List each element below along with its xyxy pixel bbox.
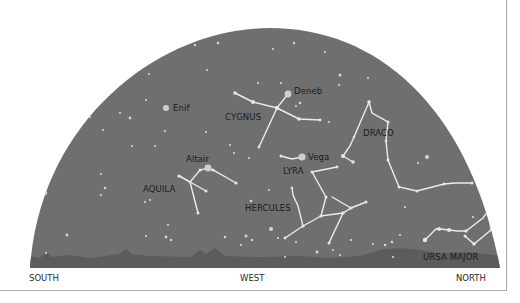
star-label-altair: Altair bbox=[186, 154, 209, 164]
direction-label-west: WEST bbox=[240, 273, 264, 283]
star-label-vega: Vega bbox=[308, 152, 329, 162]
constellation-label-ursa-major: URSA MAJOR bbox=[423, 252, 478, 262]
star-label-deneb: Deneb bbox=[294, 86, 322, 96]
constellation-label-draco: DRACO bbox=[363, 128, 394, 138]
star-label-enif: Enif bbox=[173, 103, 190, 113]
direction-label-south: SOUTH bbox=[29, 273, 59, 283]
direction-label-north: NORTH bbox=[456, 273, 486, 283]
constellation-label-cygnus: CYGNUS bbox=[225, 112, 261, 122]
constellation-label-aquila: AQUILA bbox=[143, 184, 175, 194]
constellation-label-lyra: LYRA bbox=[283, 166, 304, 176]
constellation-label-hercules: HERCULES bbox=[245, 203, 291, 213]
